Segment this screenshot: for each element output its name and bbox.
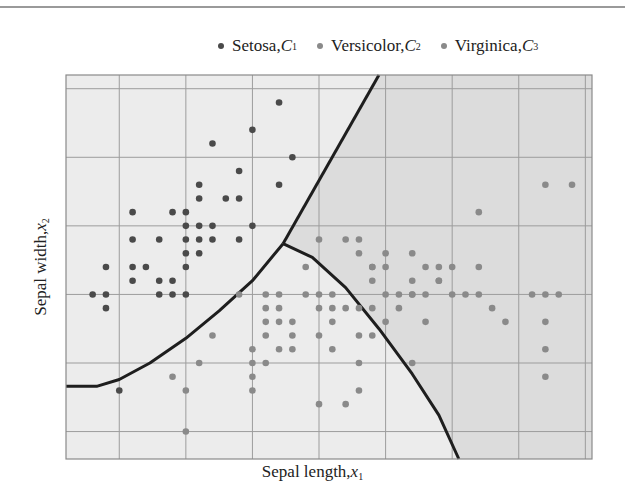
- point-setosa: [129, 236, 136, 243]
- point-setosa: [129, 209, 136, 216]
- point-setosa: [289, 154, 296, 161]
- point-versicolor: [356, 387, 363, 394]
- point-versicolor: [183, 428, 190, 435]
- point-virginica: [369, 332, 376, 339]
- point-versicolor: [289, 346, 296, 353]
- point-setosa: [249, 127, 256, 134]
- x-axis-sub: 1: [358, 471, 363, 482]
- point-setosa: [196, 223, 203, 230]
- point-setosa: [103, 264, 110, 271]
- point-virginica: [542, 181, 549, 188]
- point-virginica: [356, 236, 363, 243]
- point-versicolor: [316, 332, 323, 339]
- point-versicolor: [329, 305, 336, 312]
- point-versicolor: [342, 305, 349, 312]
- point-setosa: [183, 250, 190, 257]
- point-virginica: [569, 181, 576, 188]
- point-virginica: [542, 291, 549, 298]
- point-virginica: [542, 319, 549, 326]
- point-versicolor: [316, 236, 323, 243]
- point-setosa: [196, 236, 203, 243]
- point-versicolor: [249, 346, 256, 353]
- point-virginica: [476, 209, 483, 216]
- y-axis-var: x: [31, 223, 50, 231]
- point-virginica: [369, 264, 376, 271]
- point-versicolor: [236, 291, 243, 298]
- point-versicolor: [316, 401, 323, 408]
- point-setosa: [183, 236, 190, 243]
- point-virginica: [529, 291, 536, 298]
- point-versicolor: [316, 305, 323, 312]
- point-virginica: [555, 291, 562, 298]
- point-versicolor: [329, 319, 336, 326]
- point-setosa: [183, 223, 190, 230]
- point-virginica: [342, 236, 349, 243]
- point-versicolor: [196, 360, 203, 367]
- point-versicolor: [276, 291, 283, 298]
- point-setosa: [222, 195, 229, 202]
- point-virginica: [289, 319, 296, 326]
- point-virginica: [422, 264, 429, 271]
- point-versicolor: [289, 332, 296, 339]
- point-versicolor: [422, 319, 429, 326]
- point-versicolor: [342, 401, 349, 408]
- point-virginica: [382, 250, 389, 257]
- y-axis-label-text: Sepal width,: [31, 231, 50, 316]
- point-setosa: [183, 209, 190, 216]
- point-versicolor: [262, 332, 269, 339]
- point-virginica: [262, 319, 269, 326]
- point-setosa: [116, 387, 123, 394]
- point-versicolor: [356, 360, 363, 367]
- point-virginica: [356, 305, 363, 312]
- x-axis-label: Sepal length,x1: [0, 462, 625, 482]
- point-versicolor: [262, 305, 269, 312]
- point-setosa: [169, 277, 176, 284]
- point-setosa: [236, 195, 243, 202]
- point-virginica: [502, 319, 509, 326]
- point-virginica: [409, 250, 416, 257]
- point-versicolor: [276, 305, 283, 312]
- point-virginica: [369, 277, 376, 284]
- y-axis-sub: 2: [40, 218, 51, 223]
- plot-area: [0, 0, 625, 504]
- point-setosa: [276, 181, 283, 188]
- point-versicolor: [396, 291, 403, 298]
- point-versicolor: [276, 319, 283, 326]
- point-versicolor: [249, 387, 256, 394]
- point-versicolor: [382, 319, 389, 326]
- point-virginica: [436, 277, 443, 284]
- point-versicolor: [449, 264, 456, 271]
- x-axis-label-text: Sepal length,: [262, 462, 351, 481]
- point-setosa: [196, 250, 203, 257]
- point-virginica: [462, 291, 469, 298]
- point-setosa: [156, 291, 163, 298]
- point-virginica: [382, 291, 389, 298]
- point-setosa: [209, 223, 216, 230]
- point-setosa: [129, 264, 136, 271]
- point-setosa: [156, 277, 163, 284]
- point-virginica: [542, 373, 549, 380]
- point-setosa: [183, 264, 190, 271]
- point-virginica: [476, 264, 483, 271]
- point-versicolor: [302, 291, 309, 298]
- point-setosa: [236, 168, 243, 175]
- point-setosa: [196, 181, 203, 188]
- point-setosa: [249, 223, 256, 230]
- point-setosa: [183, 291, 190, 298]
- point-setosa: [103, 305, 110, 312]
- point-virginica: [409, 360, 416, 367]
- point-setosa: [209, 140, 216, 147]
- point-versicolor: [396, 305, 403, 312]
- point-versicolor: [276, 346, 283, 353]
- point-setosa: [129, 277, 136, 284]
- point-setosa: [169, 209, 176, 216]
- point-setosa: [236, 236, 243, 243]
- point-virginica: [422, 291, 429, 298]
- point-versicolor: [262, 360, 269, 367]
- point-versicolor: [409, 277, 416, 284]
- point-setosa: [89, 291, 96, 298]
- point-versicolor: [249, 373, 256, 380]
- point-virginica: [409, 291, 416, 298]
- point-setosa: [276, 99, 283, 106]
- point-virginica: [489, 305, 496, 312]
